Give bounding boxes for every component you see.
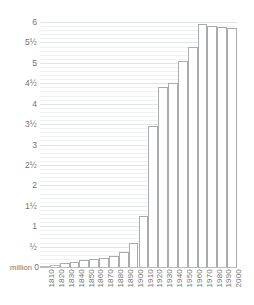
bar <box>217 27 227 267</box>
bar <box>158 87 168 267</box>
x-axis-tick-label: 1910 <box>147 269 155 288</box>
x-axis-tick-label: 1890 <box>127 269 135 288</box>
x-axis-tick-label: 1930 <box>166 269 174 288</box>
y-axis-tick-label: 2 <box>32 181 37 190</box>
x-axis-tick-label: 1840 <box>78 269 86 288</box>
bar <box>40 266 50 267</box>
bar <box>50 265 60 267</box>
bar <box>79 260 89 267</box>
bar <box>178 61 188 267</box>
plot-area <box>40 18 237 267</box>
x-axis-tick-label: 1850 <box>88 269 96 288</box>
x-axis-tick-label: 1960 <box>196 269 204 288</box>
y-axis-tick-label: 1 <box>32 222 37 231</box>
x-axis-labels: 1810182018301840185018601870188018901900… <box>40 269 237 305</box>
x-axis-tick-label: 2000 <box>235 269 243 288</box>
bar <box>188 47 198 267</box>
bar <box>139 216 149 267</box>
bar <box>109 256 119 267</box>
y-axis-tick-label: 5 <box>32 59 37 68</box>
x-axis-tick-label: 1970 <box>206 269 214 288</box>
y-axis-tick-label: 3 <box>32 141 37 150</box>
x-axis-tick-label: 1830 <box>68 269 76 288</box>
y-axis-tick-value: 0 <box>34 262 39 272</box>
x-axis-tick-label: 1920 <box>156 269 164 288</box>
bar <box>99 258 109 267</box>
y-axis-tick-label: 1½ <box>25 202 37 211</box>
bar <box>60 263 70 267</box>
bar-chart: million 0½11½22½33½44½55½6 1810182018301… <box>0 0 254 305</box>
x-axis-tick-label: 1810 <box>48 269 56 288</box>
bar <box>198 24 208 267</box>
y-axis-unit-label: million <box>10 263 34 272</box>
x-axis-tick-label: 1990 <box>225 269 233 288</box>
x-axis-tick-label: 1820 <box>58 269 66 288</box>
y-axis-tick-label: 3½ <box>25 120 37 129</box>
bar <box>129 243 139 267</box>
y-axis-tick-label: 4 <box>32 100 37 109</box>
bar <box>207 26 217 267</box>
x-axis-tick-label: 1880 <box>117 269 125 288</box>
x-axis-tick-label: 1860 <box>97 269 105 288</box>
y-axis-tick-label: 2½ <box>25 161 37 170</box>
y-axis-tick-label: ½ <box>30 243 37 252</box>
x-axis-tick-label: 1940 <box>176 269 184 288</box>
bar <box>227 28 237 267</box>
y-axis-tick-label: 5½ <box>25 38 37 47</box>
bar <box>89 259 99 267</box>
bar <box>70 262 80 267</box>
x-axis-tick-label: 1870 <box>107 269 115 288</box>
y-axis-tick-label: million 0 <box>10 263 39 273</box>
bar <box>148 126 158 267</box>
bar <box>119 252 129 267</box>
y-axis-tick-label: 6 <box>32 18 37 27</box>
bar <box>168 83 178 267</box>
x-axis-tick-label: 1900 <box>137 269 145 288</box>
y-axis-tick-label: 4½ <box>25 79 37 88</box>
x-axis-tick-label: 1980 <box>216 269 224 288</box>
x-axis-tick-label: 1950 <box>186 269 194 288</box>
